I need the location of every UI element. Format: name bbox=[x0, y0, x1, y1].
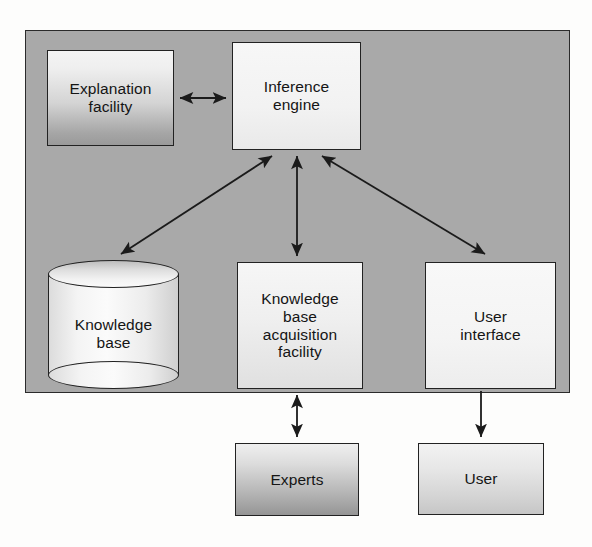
node-user-interface[interactable]: Userinterface bbox=[425, 262, 556, 389]
node-experts-label: Experts bbox=[266, 471, 327, 489]
node-kb-acquisition-facility-label: Knowledgebaseacquisitionfacility bbox=[257, 290, 343, 362]
node-kb-acquisition-facility[interactable]: Knowledgebaseacquisitionfacility bbox=[237, 262, 363, 389]
node-explanation-facility[interactable]: Explanationfacility bbox=[47, 50, 174, 146]
node-knowledge-base[interactable]: Knowledgebase bbox=[48, 260, 179, 389]
node-knowledge-base-label: Knowledgebase bbox=[48, 316, 179, 352]
cylinder-bottom-ellipse bbox=[48, 361, 179, 389]
node-user-label: User bbox=[460, 470, 501, 488]
node-inference-engine[interactable]: Inferenceengine bbox=[232, 42, 361, 150]
node-user[interactable]: User bbox=[418, 443, 544, 515]
node-inference-engine-label: Inferenceengine bbox=[260, 78, 334, 114]
node-user-interface-label: Userinterface bbox=[456, 308, 524, 344]
cylinder-top-ellipse bbox=[48, 260, 179, 288]
node-explanation-facility-label: Explanationfacility bbox=[65, 80, 155, 116]
node-experts[interactable]: Experts bbox=[235, 443, 359, 516]
diagram-root: Explanationfacility Inferenceengine Know… bbox=[0, 0, 592, 547]
